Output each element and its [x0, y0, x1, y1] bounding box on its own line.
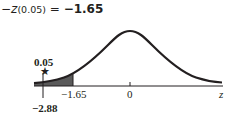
axis-label-z: z [218, 88, 224, 100]
tick-label-critical: −1.65 [61, 88, 87, 100]
star-icon: ★ [40, 65, 50, 77]
normal-density-curve [34, 31, 222, 83]
normal-curve-figure: 0.05 ★ −1.65 0 z −2.88 [0, 0, 240, 120]
tick-label-zero: 0 [127, 88, 133, 100]
marker-position-label: −2.88 [32, 102, 58, 114]
